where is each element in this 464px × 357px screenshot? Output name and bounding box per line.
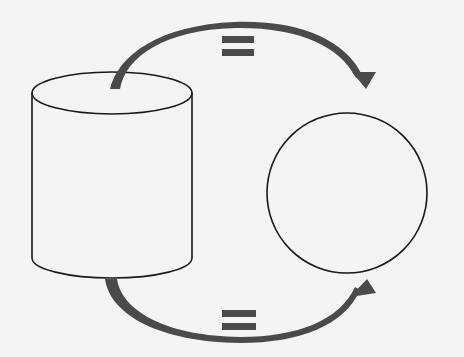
circle-shape bbox=[267, 113, 427, 273]
top-equals-sign bbox=[222, 36, 254, 56]
diagram-canvas bbox=[0, 0, 464, 357]
cylinder-shape bbox=[32, 72, 192, 278]
bottom-equals-sign bbox=[222, 310, 256, 330]
